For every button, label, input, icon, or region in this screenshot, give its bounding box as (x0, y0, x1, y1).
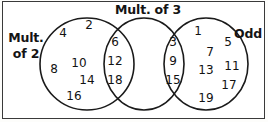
set-label-mult-of-2-line2: of 2 (4, 46, 48, 62)
venn-number: 17 (221, 79, 236, 91)
venn-number: 8 (50, 63, 58, 75)
venn-number: 3 (169, 36, 177, 48)
venn-number: 9 (169, 55, 177, 67)
venn-number: 11 (224, 60, 239, 72)
venn-number: 6 (111, 36, 119, 48)
venn-number: 4 (59, 27, 67, 39)
venn-diagram-image: Mult. of 2 Mult. of 3 Odd 42810141661218… (0, 0, 268, 122)
set-label-mult-of-2: Mult. of 2 (4, 30, 48, 61)
venn-number: 15 (165, 74, 180, 86)
venn-number: 19 (198, 92, 213, 104)
venn-number: 5 (224, 36, 232, 48)
venn-number: 2 (85, 19, 93, 31)
venn-number: 12 (107, 55, 122, 67)
venn-number: 10 (71, 57, 86, 69)
set-label-odd: Odd (234, 26, 262, 42)
set-label-mult-of-3: Mult. of 3 (104, 2, 192, 18)
venn-number: 16 (66, 90, 81, 102)
venn-number: 13 (198, 64, 213, 76)
venn-number: 1 (194, 25, 202, 37)
set-label-mult-of-2-line1: Mult. (8, 30, 43, 45)
venn-number: 7 (206, 46, 214, 58)
venn-number: 18 (107, 74, 122, 86)
venn-number: 14 (79, 74, 94, 86)
